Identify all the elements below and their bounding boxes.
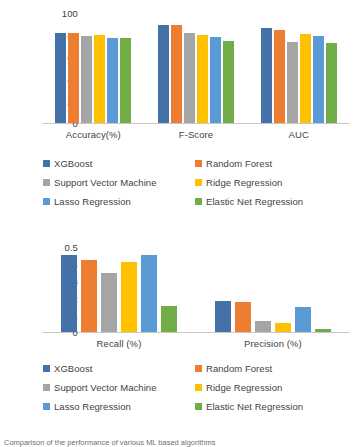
bar-lasso-regression-recall (141, 255, 157, 332)
legend-swatch-lasso-regression-icon (43, 403, 50, 410)
legend-item-elastic-net-regression[interactable]: Elastic Net Regression (195, 401, 345, 412)
legend-label: Elastic Net Regression (206, 401, 303, 412)
legend-swatch-lasso-regression-icon (43, 198, 50, 205)
bar-xgboost-f-score (158, 25, 169, 123)
bar-lasso-regression-f-score (210, 37, 221, 123)
bar-ridge-regression-accuracy (94, 35, 105, 123)
legend-label: Lasso Regression (54, 196, 131, 207)
chart-top-x-axis-labels: Accuracy(%)F-ScoreAUC (42, 124, 350, 140)
legend-swatch-random-forest-icon (195, 160, 202, 167)
legend-label: Ridge Regression (206, 382, 282, 393)
chart-top-bar-groups (42, 14, 350, 123)
legend-item-random-forest[interactable]: Random Forest (195, 363, 345, 374)
x-axis-label-accuracy: Accuracy(%) (42, 129, 145, 140)
legend-label: Random Forest (206, 363, 272, 374)
chart-bottom: 00.10.20.30.40.5 Recall (%)Precision (%)… (0, 248, 364, 412)
bar-elastic-net-regression-auc (326, 43, 337, 123)
bar-random-forest-recall (81, 260, 97, 332)
bar-xgboost-precision (215, 301, 231, 332)
x-axis-label-f-score: F-Score (145, 129, 248, 140)
bar-xgboost-auc (261, 28, 272, 123)
legend-item-random-forest[interactable]: Random Forest (195, 158, 345, 169)
bar-support-vector-machine-recall (101, 273, 117, 333)
chart-bottom-x-axis-labels: Recall (%)Precision (%) (42, 333, 350, 349)
bar-support-vector-machine-f-score (184, 33, 195, 123)
bar-ridge-regression-f-score (197, 35, 208, 123)
figure-caption: Comparison of the performance of various… (4, 438, 360, 447)
chart-bottom-plot-area: 00.10.20.30.40.5 (42, 248, 350, 333)
x-axis-label-recall: Recall (%) (42, 338, 196, 349)
chart-bottom-legend: XGBoostRandom ForestSupport Vector Machi… (19, 363, 345, 412)
bar-support-vector-machine-accuracy (81, 36, 92, 123)
bar-support-vector-machine-auc (287, 42, 298, 123)
legend-label: Support Vector Machine (54, 177, 157, 188)
bar-group-accuracy (42, 14, 145, 123)
bar-random-forest-precision (235, 302, 251, 332)
legend-swatch-ridge-regression-icon (195, 179, 202, 186)
legend-item-lasso-regression[interactable]: Lasso Regression (43, 401, 191, 412)
bar-lasso-regression-auc (313, 36, 324, 123)
legend-swatch-elastic-net-regression-icon (195, 403, 202, 410)
bar-group-recall (42, 248, 196, 332)
legend-swatch-xgboost-icon (43, 365, 50, 372)
legend-item-ridge-regression[interactable]: Ridge Regression (195, 177, 345, 188)
chart-top-plot-area: 020406080100 (42, 14, 350, 124)
legend-item-ridge-regression[interactable]: Ridge Regression (195, 382, 345, 393)
legend-label: Elastic Net Regression (206, 196, 303, 207)
legend-swatch-xgboost-icon (43, 160, 50, 167)
bar-random-forest-auc (274, 30, 285, 124)
bar-random-forest-f-score (171, 25, 182, 123)
bar-random-forest-accuracy (68, 33, 79, 123)
bar-elastic-net-regression-precision (315, 329, 331, 332)
legend-label: XGBoost (54, 363, 92, 374)
legend-item-xgboost[interactable]: XGBoost (43, 158, 191, 169)
legend-label: Ridge Regression (206, 177, 282, 188)
legend-swatch-support-vector-machine-icon (43, 179, 50, 186)
legend-label: Lasso Regression (54, 401, 131, 412)
legend-item-xgboost[interactable]: XGBoost (43, 363, 191, 374)
bar-elastic-net-regression-recall (161, 306, 177, 332)
chart-bottom-bar-groups (42, 248, 350, 332)
bar-elastic-net-regression-f-score (223, 41, 234, 124)
bar-group-precision (196, 248, 350, 332)
chart-top: 020406080100 Accuracy(%)F-ScoreAUC XGBoo… (0, 14, 364, 207)
legend-item-support-vector-machine[interactable]: Support Vector Machine (43, 382, 191, 393)
legend-item-elastic-net-regression[interactable]: Elastic Net Regression (195, 196, 345, 207)
legend-swatch-ridge-regression-icon (195, 384, 202, 391)
legend-item-lasso-regression[interactable]: Lasso Regression (43, 196, 191, 207)
bar-xgboost-accuracy (55, 33, 66, 123)
legend-label: Support Vector Machine (54, 382, 157, 393)
bar-ridge-regression-auc (300, 34, 311, 123)
bar-group-auc (247, 14, 350, 123)
bar-elastic-net-regression-accuracy (120, 38, 131, 123)
legend-swatch-support-vector-machine-icon (43, 384, 50, 391)
bar-lasso-regression-accuracy (107, 38, 118, 123)
bar-lasso-regression-precision (295, 307, 311, 332)
bar-group-f-score (145, 14, 248, 123)
legend-swatch-random-forest-icon (195, 365, 202, 372)
legend-item-support-vector-machine[interactable]: Support Vector Machine (43, 177, 191, 188)
bar-support-vector-machine-precision (255, 321, 271, 332)
legend-label: Random Forest (206, 158, 272, 169)
bar-ridge-regression-precision (275, 323, 291, 332)
legend-swatch-elastic-net-regression-icon (195, 198, 202, 205)
legend-label: XGBoost (54, 158, 92, 169)
bar-xgboost-recall (61, 255, 77, 332)
x-axis-label-precision: Precision (%) (196, 338, 350, 349)
x-axis-label-auc: AUC (247, 129, 350, 140)
chart-top-legend: XGBoostRandom ForestSupport Vector Machi… (19, 158, 345, 207)
bar-ridge-regression-recall (121, 262, 137, 332)
